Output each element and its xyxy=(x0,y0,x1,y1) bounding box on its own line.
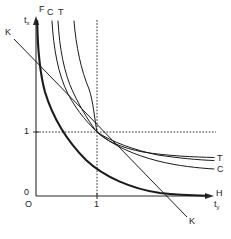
x-tick-label-1: 1 xyxy=(94,200,99,209)
plot-canvas xyxy=(0,0,231,239)
curve-label-T-top: T xyxy=(58,8,64,17)
y-axis-label-F: F xyxy=(39,5,45,14)
curve-T xyxy=(58,21,214,161)
curve-label-C-top: C xyxy=(47,8,54,17)
line-label-K-left: K xyxy=(5,28,11,37)
curve-upper xyxy=(74,21,214,158)
x-axis-label-H: H xyxy=(216,189,223,198)
x-axis-label-ty: ty xyxy=(214,200,220,210)
x-axis-label-ty-sub: y xyxy=(217,204,220,210)
origin-label: O xyxy=(25,200,32,209)
curve-label-T-right: T xyxy=(217,154,223,163)
figure-container: F tx C T K T C K 1 0 1 O H ty xyxy=(0,0,231,239)
line-K xyxy=(14,39,187,217)
y-axis-label-tx-sub: x xyxy=(27,20,30,26)
y-tick-label-0: 0 xyxy=(24,188,29,197)
y-axis-label-tx: tx xyxy=(24,16,30,26)
line-label-K-right: K xyxy=(189,217,195,226)
curve-F xyxy=(37,21,206,196)
y-tick-label-1: 1 xyxy=(24,127,29,136)
curve-label-C-right: C xyxy=(217,165,224,174)
